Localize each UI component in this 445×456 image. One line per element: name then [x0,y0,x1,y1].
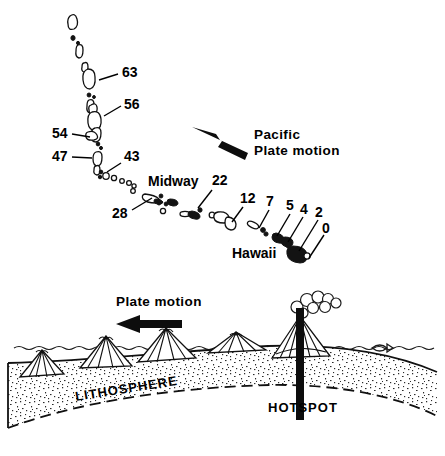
age-label-5: 5 [286,197,294,213]
plate-motion-label: Plate motion [116,294,202,309]
age-label-4: 4 [300,201,308,217]
hotspot-label: HOTSPOT [268,400,338,415]
pacific-plate-motion-label-line1: Pacific [254,127,300,142]
age-leader-lines [72,74,324,258]
age-label-54: 54 [52,125,68,141]
pacific-plate-motion-arrow [192,127,248,160]
cross-section-svg: Plate motion LITHOSPHERE HOTSPOT [0,288,445,456]
hotspot-figure: Pacific Plate motion Midway Hawaii 63 56… [0,0,445,456]
age-label-43: 43 [124,148,140,164]
island-chain-map-svg: Pacific Plate motion Midway Hawaii 63 56… [0,0,445,290]
volcano-3 [138,328,196,362]
age-label-28: 28 [112,205,128,221]
lithosphere-slab [8,346,437,428]
age-label-2: 2 [315,204,323,220]
age-label-12: 12 [240,190,256,206]
hawaii-label: Hawaii [232,245,276,261]
midway-label: Midway [148,173,199,189]
pacific-plate-motion-label-line2: Plate motion [254,143,340,158]
age-label-7: 7 [266,193,274,209]
age-label-0: 0 [322,220,330,236]
age-label-22: 22 [212,172,228,188]
age-label-63: 63 [122,64,138,80]
age-label-47: 47 [52,148,68,164]
midway-leeward-islands [142,194,236,230]
age-label-56: 56 [124,96,140,112]
volcano-4 [208,332,266,353]
volcano-2 [80,336,132,368]
